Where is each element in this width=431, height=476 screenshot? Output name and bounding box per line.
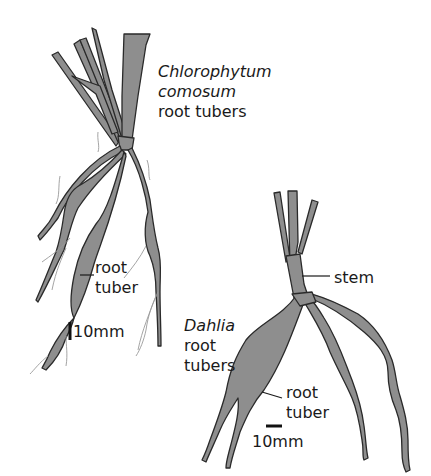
dahlia-tuber-pointer — [262, 392, 282, 398]
chlorophytum-scale-label: 10mm — [73, 322, 125, 341]
dahlia-title-line3: tubers — [184, 356, 235, 375]
chlorophytum-root-label: root — [95, 258, 127, 277]
fine-root — [124, 246, 146, 278]
diagram-canvas: Chlorophytum comosum root tubers root tu… — [0, 0, 431, 476]
fine-root — [136, 292, 158, 356]
dahlia-title-genus: Dahlia — [184, 316, 235, 335]
dahlia-tuber-label: tuber — [286, 403, 329, 422]
dahlia-scale-label: 10mm — [252, 432, 304, 451]
chlorophytum-root-tuber — [128, 148, 161, 346]
chlorophytum-tuber-label: tuber — [95, 278, 138, 297]
fine-root — [66, 336, 67, 366]
chlorophytum-title-caption: root tubers — [158, 102, 247, 121]
fine-root — [56, 176, 60, 204]
dahlia-root-label: root — [286, 383, 318, 402]
fine-root — [98, 132, 99, 152]
dahlia-stem — [298, 200, 318, 254]
dahlia-stem-label: stem — [334, 268, 374, 287]
chlorophytum-title-genus: Chlorophytum — [158, 62, 272, 81]
dahlia-title-line2: root — [184, 336, 216, 355]
chlorophytum-leaf — [122, 34, 150, 142]
chlorophytum-title-species: comosum — [158, 82, 236, 101]
dahlia-stem — [274, 192, 290, 262]
fine-root — [147, 160, 150, 180]
